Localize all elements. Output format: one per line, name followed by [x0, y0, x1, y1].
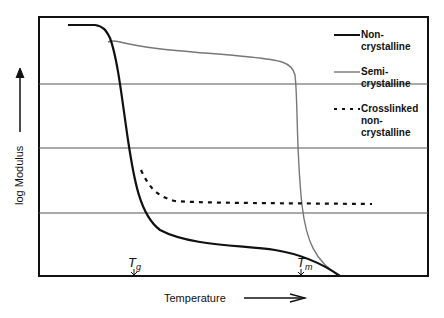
chart: Non- crystalline Semi- crystalline Cross…: [0, 0, 444, 318]
x-axis-label: Temperature: [164, 292, 226, 304]
y-axis-label: log Modulus: [13, 145, 25, 205]
tg-subscript: g: [136, 262, 141, 272]
legend-label: crystalline: [361, 78, 411, 89]
y-axis-arrowhead-icon: [16, 68, 24, 78]
tm-subscript: m: [305, 262, 313, 272]
legend-label: crystalline: [361, 127, 411, 138]
series-crosslinked: [141, 170, 372, 204]
legend-label: non-: [361, 115, 383, 126]
legend-label: Semi-: [361, 66, 388, 77]
series-semi-crystalline: [108, 41, 340, 276]
legend-label: crystalline: [361, 41, 411, 52]
legend-label: Crosslinked: [361, 103, 418, 114]
series-non-crystalline: [68, 25, 340, 276]
legend-label: Non-: [361, 29, 384, 40]
